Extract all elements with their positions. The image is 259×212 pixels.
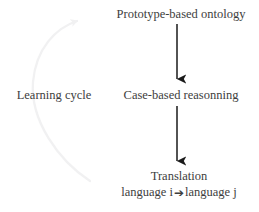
node-translation-source-language: language i <box>121 185 173 199</box>
node-case-based-reasonning: Case-based reasonning <box>104 88 258 103</box>
node-translation: Translation language i➔language j <box>100 169 258 200</box>
node-case-based-reasonning-label: Case-based reasonning <box>124 88 239 102</box>
node-translation-line-1: Translation <box>100 169 258 184</box>
learning-cycle-label: Learning cycle <box>8 88 100 103</box>
diagram-canvas: Prototype-based ontology Case-based reas… <box>0 0 259 212</box>
right-arrow-icon: ➔ <box>173 186 185 200</box>
node-prototype-based-ontology: Prototype-based ontology <box>104 7 258 22</box>
node-prototype-based-ontology-label: Prototype-based ontology <box>117 7 246 21</box>
node-translation-line-2: language i➔language j <box>100 185 258 200</box>
node-translation-target-language: language j <box>185 185 237 199</box>
